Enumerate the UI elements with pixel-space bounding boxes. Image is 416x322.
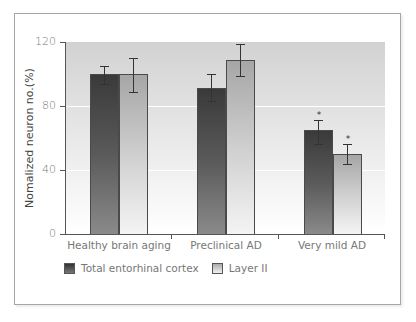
- x-category-label: Healthy brain aging: [64, 239, 174, 251]
- error-bar: [240, 44, 241, 76]
- y-tick-80: [60, 106, 65, 107]
- bar: [226, 60, 255, 234]
- legend-swatch-dark: [64, 263, 75, 274]
- legend-item-total-entorhinal-cortex: Total entorhinal cortex: [64, 262, 199, 274]
- error-bar-cap: [314, 144, 323, 145]
- error-bar-cap: [236, 44, 245, 45]
- y-tick-0: [60, 234, 65, 235]
- y-axis-title: Nomalized neuron no.(%): [23, 68, 36, 208]
- error-bar-cap: [100, 84, 109, 85]
- y-tick-label-120: 120: [16, 36, 56, 48]
- y-axis: [65, 42, 66, 235]
- error-bar-cap: [129, 92, 138, 93]
- x-axis: [65, 234, 385, 235]
- error-bar: [211, 74, 212, 101]
- error-bar-cap: [314, 120, 323, 121]
- legend-label: Layer II: [229, 262, 268, 274]
- error-bar-cap: [207, 74, 216, 75]
- error-bar: [104, 66, 105, 84]
- x-category-label: Very mild AD: [277, 239, 387, 251]
- y-tick-label-0: 0: [16, 228, 56, 240]
- error-bar: [347, 144, 348, 163]
- error-bar-cap: [129, 58, 138, 59]
- error-bar-cap: [236, 76, 245, 77]
- bar: [333, 154, 362, 234]
- x-category-label: Preclinical AD: [171, 239, 281, 251]
- significance-marker: *: [343, 135, 353, 144]
- error-bar: [133, 58, 134, 92]
- bar: [90, 74, 119, 234]
- error-bar-cap: [100, 66, 109, 67]
- y-tick-40: [60, 170, 65, 171]
- legend-item-layer-ii: Layer II: [212, 262, 268, 274]
- error-bar-cap: [343, 144, 352, 145]
- significance-marker: *: [314, 111, 324, 120]
- error-bar: [318, 120, 319, 144]
- legend-swatch-light: [212, 263, 223, 274]
- error-bar-cap: [207, 101, 216, 102]
- y-tick-120: [60, 42, 65, 43]
- legend: Total entorhinal cortex Layer II: [64, 262, 281, 274]
- legend-label: Total entorhinal cortex: [81, 262, 199, 274]
- bar: [304, 130, 333, 234]
- error-bar-cap: [343, 164, 352, 165]
- bar: [119, 74, 148, 234]
- bar: [197, 88, 226, 234]
